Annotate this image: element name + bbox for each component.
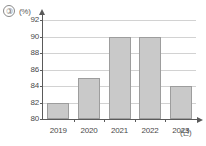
y-axis-tick-mark — [40, 119, 43, 120]
y-axis-tick-label: 86 — [31, 65, 40, 74]
bar-2021 — [109, 37, 131, 120]
bar-chart-figure: ③ (%) (년) 80828486889092 201920202021202… — [0, 0, 206, 146]
x-axis-tick-mark — [74, 119, 75, 122]
x-axis-tick-label: 2022 — [134, 126, 166, 135]
gridline — [43, 20, 196, 21]
y-axis-tick-mark — [40, 20, 43, 21]
x-axis-tick-mark — [135, 119, 136, 122]
bar-2020 — [78, 78, 100, 119]
x-axis-arrowhead — [197, 117, 203, 123]
y-axis-tick-label: 92 — [31, 15, 40, 24]
y-axis-tick-label: 80 — [31, 114, 40, 123]
item-number-marker: ③ — [3, 5, 15, 17]
plot-area — [43, 20, 196, 119]
y-axis-tick-mark — [40, 53, 43, 54]
x-axis-tick-mark — [104, 119, 105, 122]
y-axis-tick-label: 82 — [31, 98, 40, 107]
x-axis-tick-label: 2020 — [73, 126, 105, 135]
bar-2023 — [170, 86, 192, 119]
x-axis-tick-label: 2019 — [42, 126, 74, 135]
bar-2019 — [47, 103, 69, 120]
y-axis-tick-mark — [40, 103, 43, 104]
y-axis-tick-label: 90 — [31, 32, 40, 41]
bar-2022 — [139, 37, 161, 120]
x-axis-tick-mark — [165, 119, 166, 122]
y-axis-unit-label: (%) — [19, 7, 31, 16]
y-axis-arrowhead — [39, 9, 45, 15]
y-axis-tick-mark — [40, 70, 43, 71]
y-axis-tick-labels: 80828486889092 — [15, 20, 39, 119]
y-axis-tick-label: 84 — [31, 81, 40, 90]
x-axis-tick-label: 2023 — [165, 126, 197, 135]
y-axis-tick-mark — [40, 37, 43, 38]
y-axis-tick-label: 88 — [31, 48, 40, 57]
x-axis-line — [42, 119, 198, 120]
y-axis-tick-mark — [40, 86, 43, 87]
x-axis-tick-label: 2021 — [104, 126, 136, 135]
